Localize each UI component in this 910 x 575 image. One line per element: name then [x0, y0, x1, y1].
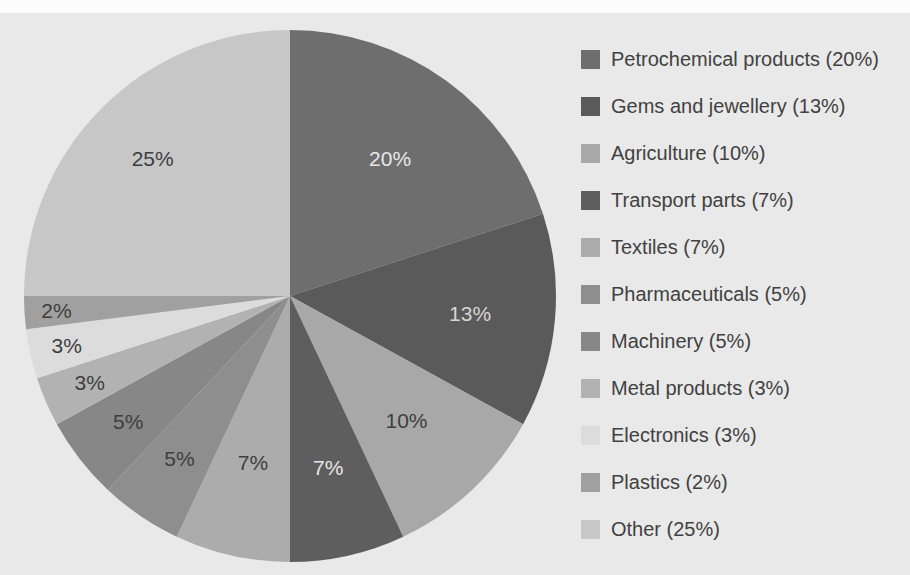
slice-label: 7% [313, 456, 343, 479]
legend-item: Electronics (3%) [581, 412, 879, 459]
legend-label: Other (25%) [611, 518, 720, 541]
legend-item: Textiles (7%) [581, 224, 879, 271]
slice-label: 3% [52, 334, 82, 357]
legend-swatch [581, 332, 600, 351]
slice-label: 7% [238, 451, 268, 474]
legend-label: Machinery (5%) [611, 330, 751, 353]
slice-label: 5% [164, 447, 194, 470]
legend-swatch [581, 520, 600, 539]
slice-label: 2% [41, 299, 71, 322]
legend-label: Metal products (3%) [611, 377, 790, 400]
slice-label: 10% [385, 409, 427, 432]
slice-label: 3% [75, 371, 105, 394]
legend-swatch [581, 144, 600, 163]
legend-label: Gems and jewellery (13%) [611, 95, 846, 118]
slice-label: 5% [113, 410, 143, 433]
legend-item: Plastics (2%) [581, 459, 879, 506]
legend-label: Petrochemical products (20%) [611, 48, 879, 71]
legend-label: Plastics (2%) [611, 471, 728, 494]
legend-label: Pharmaceuticals (5%) [611, 283, 807, 306]
legend-swatch [581, 191, 600, 210]
legend-item: Agriculture (10%) [581, 130, 879, 177]
legend-label: Transport parts (7%) [611, 189, 794, 212]
legend-swatch [581, 97, 600, 116]
legend-item: Other (25%) [581, 506, 879, 553]
legend-swatch [581, 285, 600, 304]
legend-swatch [581, 238, 600, 257]
legend-label: Agriculture (10%) [611, 142, 766, 165]
slice-label: 25% [132, 147, 174, 170]
legend-label: Electronics (3%) [611, 424, 757, 447]
legend-label: Textiles (7%) [611, 236, 725, 259]
legend-item: Pharmaceuticals (5%) [581, 271, 879, 318]
legend-swatch [581, 426, 600, 445]
legend-item: Machinery (5%) [581, 318, 879, 365]
legend: Petrochemical products (20%)Gems and jew… [581, 36, 879, 553]
legend-item: Petrochemical products (20%) [581, 36, 879, 83]
legend-swatch [581, 473, 600, 492]
legend-swatch [581, 379, 600, 398]
slice-label: 20% [369, 147, 411, 170]
pie-chart-figure: 20%13%10%7%7%5%5%3%3%2%25% Petrochemical… [0, 0, 910, 575]
legend-swatch [581, 50, 600, 69]
slice-label: 13% [449, 302, 491, 325]
legend-item: Metal products (3%) [581, 365, 879, 412]
legend-item: Transport parts (7%) [581, 177, 879, 224]
legend-item: Gems and jewellery (13%) [581, 83, 879, 130]
